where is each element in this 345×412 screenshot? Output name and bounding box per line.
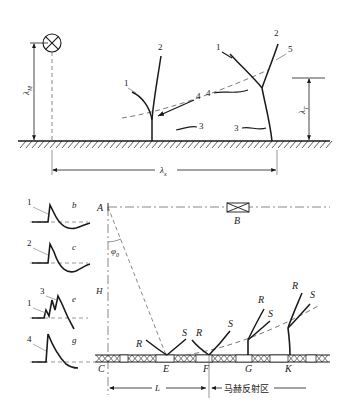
slant-ray-ae [108, 207, 166, 355]
upper-left-leader-3 [176, 126, 197, 130]
hob-dimension-label: λM [21, 85, 33, 96]
shock-label-r-e: R [135, 338, 142, 349]
triple-point-trajectory [122, 70, 268, 118]
tph-dimension-label: λT [297, 106, 309, 115]
waveform-c: 2 c [27, 238, 90, 272]
svg-text:λT: λT [297, 106, 309, 115]
waveform-g-leader-4 [33, 344, 46, 351]
waveform-e-letter: e [72, 294, 76, 304]
point-label-g: G [245, 363, 252, 374]
right-incident-shock [230, 54, 262, 88]
shock-label-s-g: S [268, 308, 273, 319]
upper-left-callout-4: 4 [196, 91, 201, 101]
figure-root: λM λx λT 1 2 3 4 1 2 [0, 0, 345, 412]
shock-label-r-f: R [195, 327, 202, 338]
lower-panel: A B C φ0 H [95, 202, 330, 398]
shock-incident-f [192, 340, 209, 355]
diagram-canvas: λM λx λT 1 2 3 4 1 2 [0, 0, 345, 412]
shock-reflected-f [209, 331, 230, 355]
waveform-e: 3 1 e [27, 286, 88, 329]
waveform-c-letter: c [72, 242, 76, 252]
right-reflected-shock [262, 44, 278, 88]
point-label-b: B [234, 215, 240, 226]
upper-right-leader-4 [214, 90, 248, 93]
upper-right-callout-4: 4 [206, 88, 211, 98]
upper-left-callout-2: 2 [158, 42, 163, 52]
mach-stem-k [288, 328, 290, 355]
upper-right-callout-1: 1 [216, 42, 221, 52]
waveform-c-callout-2: 2 [27, 238, 32, 248]
waveform-b: 1 b [27, 197, 90, 228]
waveform-b-leader-1 [33, 207, 48, 214]
shock-incident-e [146, 340, 167, 355]
waveform-b-callout-1: 1 [27, 197, 32, 207]
upper-right-leader-3 [242, 128, 266, 129]
upper-right-callout-3: 3 [234, 123, 239, 133]
right-mach-stem [262, 88, 272, 141]
point-label-c: C [98, 363, 105, 374]
upper-panel: λM λx λT 1 2 3 4 1 2 [18, 28, 332, 177]
waveform-c-trace [32, 244, 90, 272]
waveform-b-letter: b [72, 200, 77, 210]
waveform-g: 4 g [27, 334, 95, 368]
ground-hatch-upper [20, 141, 332, 148]
shock-reflected-k [288, 304, 310, 328]
shock-label-r-k: R [291, 280, 298, 291]
shock-label-s-e: S [182, 327, 187, 338]
shock-reflected-e [167, 339, 186, 355]
shock-reflected-g [248, 321, 270, 340]
waveform-c-leader-2 [33, 248, 48, 255]
waveform-b-trace [32, 205, 90, 228]
point-label-e: E [162, 363, 169, 374]
angle-arc-phi0 [108, 239, 121, 242]
waveform-e-leader-3 [46, 296, 57, 300]
upper-left-leader-4 [158, 100, 194, 116]
shock-label-s-k: S [310, 289, 315, 300]
upper-right-leader-5 [276, 54, 286, 60]
waveform-e-callout-3: 3 [40, 286, 45, 296]
shock-label-r-g: R [257, 294, 264, 305]
waveform-e-trace [32, 296, 74, 329]
upper-left-callout-1: 1 [124, 78, 129, 88]
upper-right-callout-5: 5 [288, 44, 293, 54]
svg-text:λM: λM [21, 85, 33, 96]
angle-label-phi0: φ0 [111, 246, 119, 258]
waveform-insets: 1 b 2 c 3 1 e 4 g [27, 197, 95, 368]
waveform-e-callout-1: 1 [27, 298, 32, 308]
waveform-e-leader-1 [33, 308, 46, 313]
waveform-g-callout-4: 4 [27, 334, 32, 344]
waveform-g-letter: g [72, 335, 77, 345]
point-label-a: A [96, 202, 104, 213]
height-label-h: H [95, 286, 103, 296]
bowtie-target-icon [227, 203, 249, 212]
upper-left-callout-3: 3 [199, 121, 204, 131]
length-label-l: L [154, 383, 160, 393]
shock-label-s-f: S [228, 318, 233, 329]
mach-reflection-zone-label: 马赫反射区 [224, 383, 269, 394]
point-label-k: K [284, 363, 293, 374]
shock-incident-k [288, 293, 302, 328]
upper-right-callout-2: 2 [274, 28, 279, 38]
